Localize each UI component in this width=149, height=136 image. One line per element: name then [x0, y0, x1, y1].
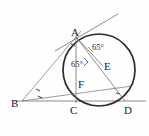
- angle-label-lower: 65°: [71, 59, 83, 69]
- right-angle-mark-f: [84, 58, 88, 66]
- point-label-a: A: [71, 26, 79, 38]
- tick-mark-b-lower: [38, 96, 42, 98]
- geometry-canvas: A B C D E F 65° 65°: [0, 0, 149, 136]
- point-label-c: C: [70, 104, 77, 116]
- point-label-b: B: [11, 97, 18, 109]
- point-label-e: E: [104, 60, 111, 72]
- geometry-figure: A B C D E F 65° 65°: [0, 0, 149, 136]
- angle-label-upper: 65°: [92, 42, 104, 52]
- tangent-line-at-a: [55, 14, 118, 51]
- tick-mark-b-upper: [36, 89, 40, 91]
- point-label-f: F: [78, 78, 84, 90]
- point-label-d: D: [124, 104, 132, 116]
